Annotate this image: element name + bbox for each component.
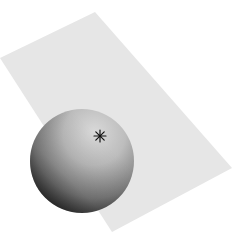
sphere-plane-diagram <box>0 0 232 248</box>
sphere <box>30 109 134 213</box>
point-marker-icon <box>94 130 106 142</box>
